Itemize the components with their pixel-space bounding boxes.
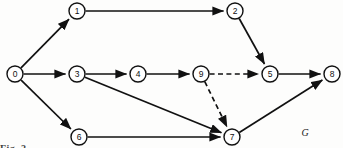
graph-node-8[interactable]: 8: [324, 66, 340, 82]
graph-node-4[interactable]: 4: [130, 66, 146, 82]
graph-node-0[interactable]: 0: [7, 66, 23, 82]
edge-0-to-6: [21, 80, 71, 129]
graph-node-5[interactable]: 5: [262, 66, 278, 82]
node-label-3: 3: [75, 69, 80, 79]
graph-node-9[interactable]: 9: [193, 66, 209, 82]
node-label-9: 9: [199, 69, 204, 79]
caption-fragment: Fig. 2: [0, 144, 26, 148]
edge-7-to-8: [239, 80, 322, 132]
edge-2-to-5: [239, 19, 264, 65]
node-label-2: 2: [233, 6, 238, 16]
figure-container: 0123495867 G Fig. 2: [0, 0, 343, 148]
graph-node-2[interactable]: 2: [227, 3, 243, 19]
directed-graph-canvas: 0123495867 G: [0, 0, 343, 148]
node-label-7: 7: [230, 132, 235, 142]
node-label-1: 1: [75, 6, 80, 16]
edge-0-to-1: [21, 19, 69, 68]
edge-3-to-7: [85, 77, 221, 132]
edge-9-to-7: [205, 82, 227, 127]
node-label-0: 0: [13, 69, 18, 79]
node-label-5: 5: [268, 69, 273, 79]
node-label-4: 4: [136, 69, 141, 79]
graph-node-7[interactable]: 7: [224, 129, 240, 145]
node-label-8: 8: [330, 69, 335, 79]
graph-name-label: G: [301, 127, 308, 138]
graph-node-6[interactable]: 6: [71, 129, 87, 145]
graph-node-1[interactable]: 1: [69, 3, 85, 19]
node-label-6: 6: [77, 132, 82, 142]
graph-node-3[interactable]: 3: [69, 66, 85, 82]
